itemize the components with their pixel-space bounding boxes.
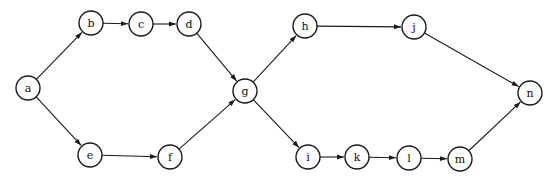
edge-m-n bbox=[469, 102, 521, 151]
edge-g-h bbox=[253, 36, 296, 83]
edge-e-f bbox=[102, 155, 157, 156]
node-g: g bbox=[233, 79, 257, 103]
arrow-icon bbox=[103, 23, 128, 24]
node-label: i bbox=[306, 151, 310, 164]
edge-l-m bbox=[421, 158, 447, 159]
arrow-icon bbox=[102, 155, 157, 156]
node-label: a bbox=[25, 82, 32, 95]
node-j: j bbox=[402, 15, 426, 39]
node-a: a bbox=[16, 76, 40, 100]
arrow-icon bbox=[36, 32, 82, 79]
node-k: k bbox=[345, 145, 369, 169]
edge-a-b bbox=[36, 32, 82, 79]
edge-f-g bbox=[179, 100, 235, 149]
arrow-icon bbox=[197, 33, 237, 81]
arrow-icon bbox=[179, 100, 235, 149]
arrow-icon bbox=[424, 33, 518, 87]
node-label: d bbox=[185, 18, 192, 31]
arrow-icon bbox=[36, 97, 81, 146]
node-i: i bbox=[296, 145, 320, 169]
edge-k-l bbox=[369, 157, 396, 158]
arrow-icon bbox=[253, 100, 299, 148]
arrow-icon bbox=[317, 26, 401, 27]
node-label: n bbox=[526, 87, 533, 100]
node-l: l bbox=[397, 146, 421, 170]
node-label: l bbox=[407, 152, 411, 165]
node-b: b bbox=[79, 11, 103, 35]
directed-graph: abcdefghjniklm bbox=[0, 0, 557, 184]
node-label: m bbox=[455, 153, 466, 166]
node-label: c bbox=[138, 18, 144, 31]
node-c: c bbox=[129, 12, 153, 36]
node-h: h bbox=[293, 14, 317, 38]
edge-j-n bbox=[424, 33, 518, 87]
edges-layer bbox=[36, 23, 520, 159]
arrow-icon bbox=[369, 157, 396, 158]
node-d: d bbox=[177, 12, 201, 36]
edge-h-j bbox=[317, 26, 401, 27]
arrow-icon bbox=[421, 158, 447, 159]
edge-d-g bbox=[197, 33, 237, 81]
edge-a-e bbox=[36, 97, 81, 146]
arrow-icon bbox=[253, 36, 296, 83]
node-label: e bbox=[87, 149, 94, 162]
node-n: n bbox=[518, 81, 542, 105]
node-label: h bbox=[301, 20, 308, 33]
nodes-layer: abcdefghjniklm bbox=[16, 11, 542, 171]
arrow-icon bbox=[469, 102, 521, 151]
edge-g-i bbox=[253, 100, 299, 148]
node-label: g bbox=[241, 85, 248, 98]
node-f: f bbox=[158, 145, 182, 169]
node-label: k bbox=[354, 151, 361, 164]
node-e: e bbox=[78, 143, 102, 167]
edge-b-c bbox=[103, 23, 128, 24]
node-m: m bbox=[448, 147, 472, 171]
node-label: b bbox=[87, 17, 94, 30]
